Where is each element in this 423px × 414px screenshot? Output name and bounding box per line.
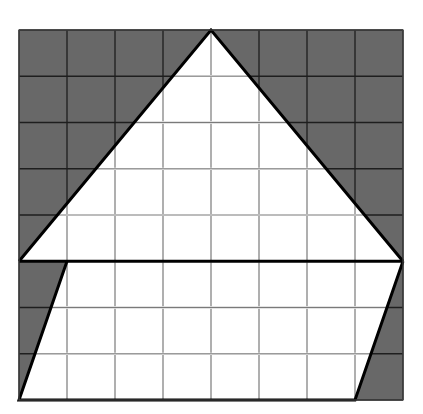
grid-figure [0, 0, 423, 414]
